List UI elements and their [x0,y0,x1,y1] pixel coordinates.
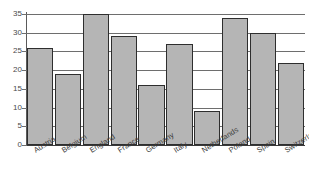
bar[interactable] [250,33,276,145]
x-axis-labels: AustriaBelgiumEnglandFranceGermanyItalyN… [26,147,305,180]
y-tick-mark [22,145,27,146]
bars-layer [26,8,305,145]
y-tick-label: 10 [2,104,22,112]
y-tick-label: 35 [2,10,22,18]
bar[interactable] [83,14,109,145]
y-tick-label: 20 [2,66,22,74]
bar[interactable] [55,74,81,145]
bar[interactable] [27,48,53,145]
y-tick-label: 30 [2,29,22,37]
y-tick-label: 5 [2,122,22,130]
bar[interactable] [111,36,137,145]
y-tick-label: 15 [2,85,22,93]
y-tick-label: 25 [2,47,22,55]
bar-chart: 05101520253035 AustriaBelgiumEnglandFran… [0,0,309,180]
y-tick-label: 0 [2,141,22,149]
bar[interactable] [278,63,304,145]
